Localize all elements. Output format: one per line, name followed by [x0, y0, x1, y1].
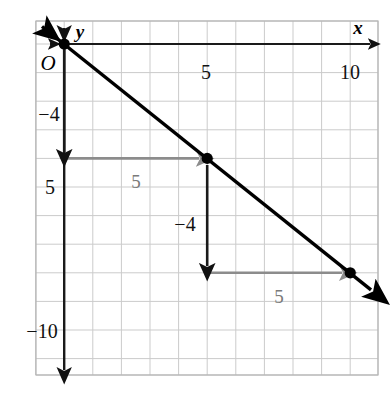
- run-label-top: 5: [131, 171, 141, 192]
- run-label-bottom: 5: [274, 286, 284, 307]
- origin-label: O: [40, 51, 55, 75]
- graph-figure: x y O 5 10 −4 5 −10 5 −4 5: [0, 0, 390, 393]
- y-tick-label-neg4: −4: [38, 103, 59, 125]
- x-tick-label-10: 10: [340, 61, 360, 83]
- point-5-neg4: [202, 153, 213, 164]
- y-tick-label-neg10: −10: [26, 320, 57, 342]
- point-10-neg8: [345, 267, 356, 278]
- y-axis-label: y: [74, 21, 85, 42]
- y-tick-label-neg5: 5: [45, 176, 55, 198]
- x-tick-label-5: 5: [201, 61, 211, 83]
- coordinate-plane-svg: x y O 5 10 −4 5 −10 5 −4 5: [0, 0, 390, 393]
- rise-label: −4: [174, 213, 195, 235]
- point-origin: [59, 38, 70, 49]
- x-axis-label: x: [352, 17, 363, 38]
